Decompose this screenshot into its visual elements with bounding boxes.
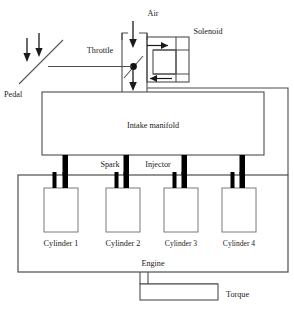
diagram-canvas: Air Solenoid Throttle Pedal Intake manif… bbox=[0, 0, 294, 310]
cylinder-body-2 bbox=[106, 188, 140, 232]
pedal-lever bbox=[19, 40, 63, 84]
label-torque: Torque bbox=[226, 290, 249, 299]
label-cylinder-3: Cylinder 3 bbox=[165, 239, 197, 248]
label-cylinder-2: Cylinder 2 bbox=[106, 239, 141, 248]
label-engine: Engine bbox=[141, 259, 165, 268]
engine-schematic-diagram: Air Solenoid Throttle Pedal Intake manif… bbox=[0, 0, 294, 310]
pedal-arrow-left bbox=[23, 38, 30, 62]
throttle-outlet-arrow bbox=[129, 70, 137, 91]
solenoid-body bbox=[147, 37, 189, 82]
cylinder-body-4 bbox=[222, 188, 256, 232]
label-intake-manifold: Intake manifold bbox=[127, 121, 179, 130]
cylinder-body-1 bbox=[44, 188, 78, 232]
label-cylinder-4: Cylinder 4 bbox=[223, 239, 255, 248]
pedal-arrow-right bbox=[35, 33, 42, 57]
label-cylinder-1: Cylinder 1 bbox=[44, 239, 79, 248]
label-air: Air bbox=[148, 9, 159, 18]
label-injector: Injector bbox=[145, 160, 171, 169]
label-throttle: Throttle bbox=[87, 46, 114, 55]
label-spark: Spark bbox=[100, 160, 120, 169]
label-pedal: Pedal bbox=[4, 90, 23, 99]
air-inlet-arrow bbox=[129, 21, 137, 48]
label-solenoid: Solenoid bbox=[193, 27, 222, 36]
cylinder-body-3 bbox=[164, 188, 198, 232]
crankshaft-output bbox=[140, 272, 218, 300]
